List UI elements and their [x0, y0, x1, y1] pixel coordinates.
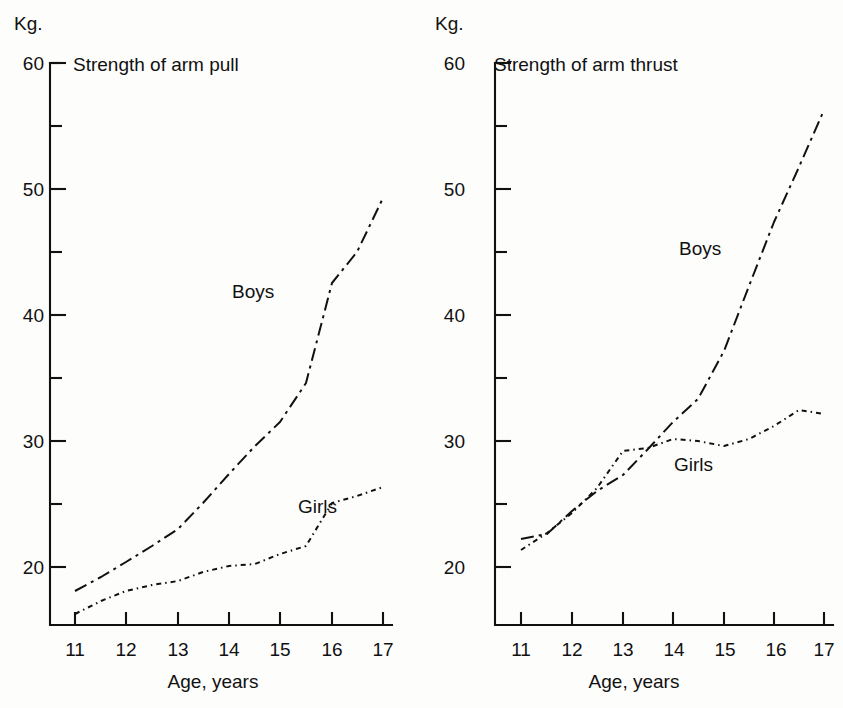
chart-plot-area — [0, 0, 421, 708]
chart-panel-arm-pull: Kg. Strength of arm pull Age, years 60 5… — [0, 0, 421, 708]
y-axis-major-ticks — [495, 63, 511, 567]
x-axis-ticks — [75, 612, 383, 625]
series-line-girls — [75, 487, 383, 614]
series-line-girls — [521, 410, 824, 550]
chart-plot-area — [421, 0, 842, 708]
series-line-boys — [521, 110, 824, 539]
x-axis-ticks — [521, 612, 824, 625]
axis-lines — [495, 63, 833, 625]
y-axis-major-ticks — [50, 63, 66, 567]
axis-lines — [50, 63, 392, 625]
series-line-boys — [75, 198, 383, 591]
chart-panel-arm-thrust: Kg. Strength of arm thrust Age, years 60… — [421, 0, 842, 708]
figure-two-line-charts: Kg. Strength of arm pull Age, years 60 5… — [0, 0, 843, 708]
